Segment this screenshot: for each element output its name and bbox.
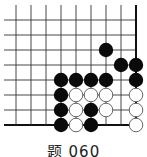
- white-stone: [69, 88, 83, 102]
- black-stone: [84, 118, 98, 132]
- white-stone: [129, 88, 143, 102]
- black-stone: [129, 73, 143, 87]
- black-stone: [99, 73, 113, 87]
- black-stone: [54, 88, 68, 102]
- black-stone: [54, 73, 68, 87]
- black-stone: [114, 58, 128, 72]
- go-board: [0, 0, 147, 140]
- white-stone: [129, 118, 143, 132]
- black-stone: [69, 73, 83, 87]
- black-stone: [99, 43, 113, 57]
- white-stone: [99, 88, 113, 102]
- stones: [54, 43, 143, 132]
- black-stone: [129, 58, 143, 72]
- white-stone: [69, 118, 83, 132]
- white-stone: [69, 103, 83, 117]
- black-stone: [54, 103, 68, 117]
- white-stone: [99, 103, 113, 117]
- white-stone: [129, 103, 143, 117]
- black-stone: [54, 118, 68, 132]
- problem-caption: 题 060: [0, 143, 147, 157]
- white-stone: [84, 88, 98, 102]
- black-stone: [84, 73, 98, 87]
- black-stone: [84, 103, 98, 117]
